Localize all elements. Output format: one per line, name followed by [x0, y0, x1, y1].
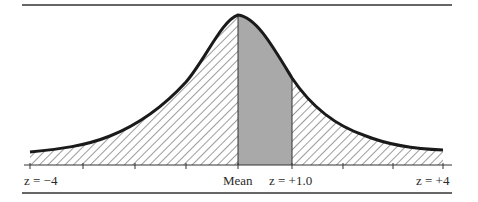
label-mean: Mean	[223, 174, 253, 188]
label-z-plus-4: z = +4	[416, 174, 449, 188]
label-z-minus-4: z = −4	[24, 174, 57, 188]
label-z-plus-1: z = +1.0	[269, 174, 312, 188]
normal-distribution-figure	[0, 0, 478, 202]
hatched-region-right	[292, 78, 443, 165]
hatched-region-left	[30, 15, 238, 165]
